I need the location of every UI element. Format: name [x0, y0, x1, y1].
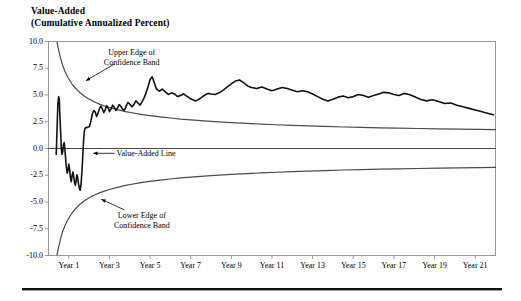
- y-axis-label-4: 0.0: [17, 144, 43, 153]
- series-value-added-line: [56, 77, 493, 190]
- y-axis-label-6: -5.0: [17, 197, 43, 206]
- x-axis-label-0: Year 1: [46, 261, 92, 270]
- x-axis-label-4: Year 9: [208, 261, 254, 270]
- y-axis-label-2: 5.0: [17, 90, 43, 99]
- x-axis-label-2: Year 5: [127, 261, 173, 270]
- y-axis-label-0: 10.0: [17, 37, 43, 46]
- value-added-line-annotation: Value-Added Line: [117, 149, 176, 159]
- x-axis-label-5: Year 11: [249, 261, 295, 270]
- chart-subtitle: (Cumulative Annualized Percent): [31, 17, 170, 29]
- chart-figure: Value-Added (Cumulative Annualized Perce…: [0, 0, 521, 301]
- x-axis-label-3: Year 7: [168, 261, 214, 270]
- y-axis-label-3: 2.5: [17, 117, 43, 126]
- lower-band-annotation-line1: Lower Edge of: [114, 211, 170, 221]
- y-axis-label-5: -2.5: [17, 170, 43, 179]
- y-axis-label-7: -7.5: [17, 224, 43, 233]
- y-axis-label-1: 7.5: [17, 63, 43, 72]
- x-axis-label-7: Year 15: [330, 261, 376, 270]
- x-axis-label-8: Year 17: [371, 261, 417, 270]
- x-axis-label-9: Year 19: [412, 261, 458, 270]
- x-axis-label-1: Year 3: [86, 261, 132, 270]
- lower-band-annotation-leader: [101, 199, 124, 210]
- x-axis-label-10: Year 21: [452, 261, 498, 270]
- value-added-line-annotation-line1: Value-Added Line: [117, 149, 176, 159]
- footer-rule: [22, 288, 502, 290]
- page-title: Value-Added: [31, 5, 170, 17]
- upper-band-annotation-line1: Upper Edge of: [104, 48, 160, 58]
- chart-title-block: Value-Added (Cumulative Annualized Perce…: [31, 5, 170, 29]
- upper-band-annotation-line2: Confidence Band: [104, 58, 160, 68]
- y-axis-label-8: -10.0: [17, 251, 43, 260]
- lower-band-annotation: Lower Edge ofConfidence Band: [114, 211, 170, 231]
- chart-plot-area: [0, 0, 521, 301]
- upper-band-annotation: Upper Edge ofConfidence Band: [104, 48, 160, 68]
- lower-band-annotation-line2: Confidence Band: [114, 221, 170, 231]
- x-axis-label-6: Year 13: [290, 261, 336, 270]
